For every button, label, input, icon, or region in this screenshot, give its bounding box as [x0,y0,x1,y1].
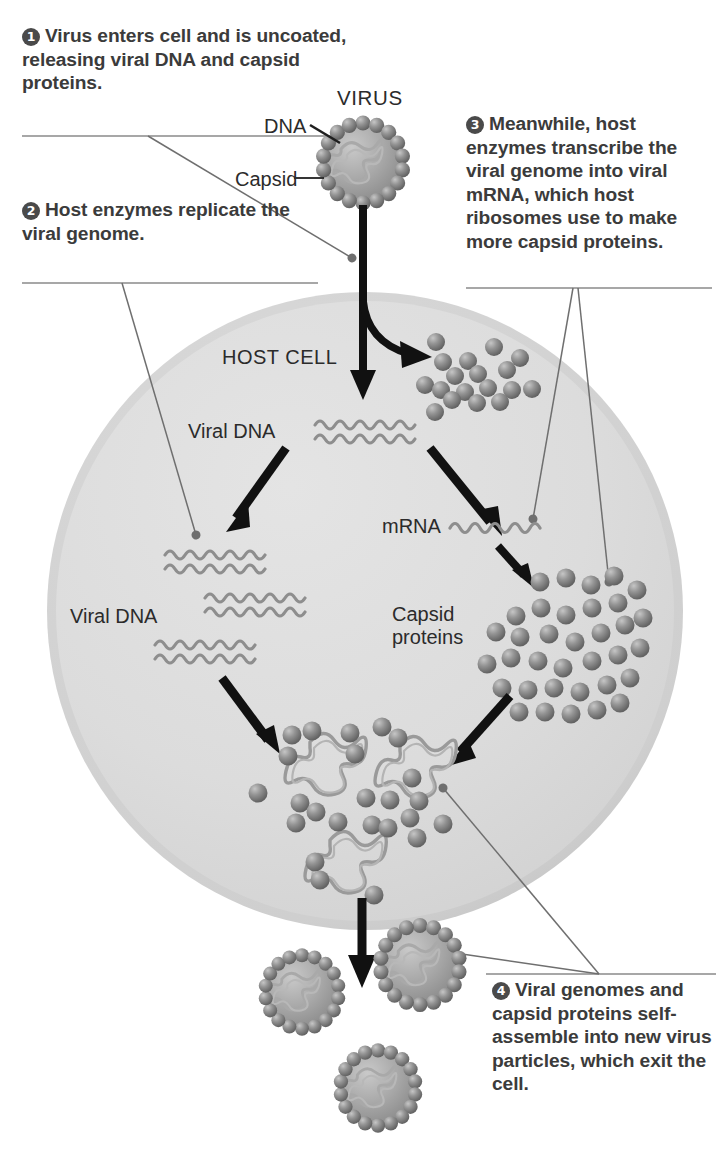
progeny-virus-left [259,948,345,1036]
label-virus: VIRUS [337,86,403,109]
callout-3: 3Meanwhile, host enzymes transcribe the … [466,112,710,254]
callout-2-text: Host enzymes replicate the viral genome. [22,199,290,244]
label-dna: DNA [264,115,306,138]
progeny-virus-bottom [334,1043,422,1132]
callout-1: 1Virus enters cell and is uncoated, rele… [22,24,352,95]
label-mrna: mRNA [382,515,441,538]
progeny-virus-right [373,918,466,1012]
callout-1-text: Virus enters cell and is uncoated, relea… [22,25,346,93]
callout-3-badge: 3 [466,116,484,134]
callout-4-text: Viral genomes and capsid proteins self-a… [492,979,712,1094]
callout-3-text: Meanwhile, host enzymes transcribe the v… [466,113,677,252]
label-capsid: Capsid [235,168,297,191]
callout-1-badge: 1 [22,28,40,46]
callout-4: 4Viral genomes and capsid proteins self-… [492,978,717,1096]
leader-line-4b [455,953,599,974]
callout-4-badge: 4 [492,982,510,1000]
label-host-cell: HOST CELL [222,346,337,369]
virus-particle-entering [316,115,410,210]
label-viral-dna-bottom: Viral DNA [70,605,157,628]
label-capsid-proteins: Capsid proteins [392,603,488,649]
diagram-canvas: 1Virus enters cell and is uncoated, rele… [0,0,719,1169]
label-viral-dna-top: Viral DNA [188,420,275,443]
callout-2: 2Host enzymes replicate the viral genome… [22,198,322,245]
callout-2-badge: 2 [22,202,40,220]
